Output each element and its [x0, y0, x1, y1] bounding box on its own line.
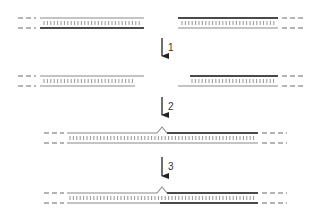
row-2-resected-ends: [18, 76, 306, 86]
row-3-annealed-with-flap: [44, 127, 287, 143]
row-4-ligated: [44, 187, 287, 203]
step-number-label: 3: [168, 161, 174, 172]
row-1-gapped-ends: [18, 18, 306, 28]
step-2: 2: [162, 97, 174, 115]
flap-icon: [157, 127, 167, 133]
step-arrows: 123: [162, 38, 174, 176]
step-3: 3: [162, 157, 174, 176]
flap-icon: [157, 187, 167, 193]
dna-repair-diagram: 123: [0, 0, 322, 215]
step-number-label: 2: [168, 101, 174, 112]
step-1: 1: [162, 38, 174, 56]
step-number-label: 1: [168, 42, 174, 53]
